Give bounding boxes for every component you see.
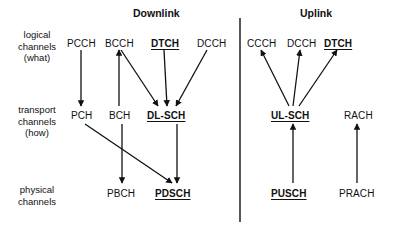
edge-ulsch-dcch xyxy=(293,50,300,106)
row-label-logical-line2: channels xyxy=(6,41,68,53)
node-pch[interactable]: PCH xyxy=(71,110,92,121)
row-label-physical-line2: channels xyxy=(6,196,68,208)
row-label-logical-line3: (what) xyxy=(6,52,68,64)
node-prach[interactable]: PRACH xyxy=(339,188,375,199)
edge-ulsch-ccch xyxy=(261,50,289,106)
uplink-title: Uplink xyxy=(300,7,332,19)
node-pdsch[interactable]: PDSCH xyxy=(155,188,191,199)
row-label-transport-line3: (how) xyxy=(6,127,68,139)
node-pcch[interactable]: PCCH xyxy=(67,38,96,49)
edge-dcchdl-dlsch xyxy=(176,50,207,106)
row-label-physical: physical channels xyxy=(6,184,68,207)
edge-bcch-dlsch xyxy=(121,50,158,106)
edge-pch-pdsch xyxy=(85,124,172,183)
node-bcch[interactable]: BCCH xyxy=(105,38,134,49)
row-label-transport-line2: channels xyxy=(6,116,68,128)
node-dcch-uplink[interactable]: DCCH xyxy=(287,38,316,49)
node-dtch-uplink[interactable]: DTCH xyxy=(324,38,352,49)
node-dcch-downlink[interactable]: DCCH xyxy=(197,38,226,49)
node-pbch[interactable]: PBCH xyxy=(107,188,135,199)
node-dl-sch[interactable]: DL-SCH xyxy=(147,110,185,121)
node-ccch-uplink[interactable]: CCCH xyxy=(247,38,276,49)
row-label-physical-line1: physical xyxy=(6,184,68,196)
downlink-title: Downlink xyxy=(133,7,180,19)
node-bch[interactable]: BCH xyxy=(109,110,130,121)
row-label-logical: logical channels (what) xyxy=(6,29,68,64)
row-label-transport: transport channels (how) xyxy=(6,104,68,139)
node-pusch[interactable]: PUSCH xyxy=(271,188,307,199)
edge-ulsch-dtch xyxy=(299,50,337,106)
node-rach[interactable]: RACH xyxy=(344,110,373,121)
node-dtch-downlink[interactable]: DTCH xyxy=(151,38,179,49)
row-label-logical-line1: logical xyxy=(6,29,68,41)
diagram-canvas: Downlink Uplink logical channels (what) … xyxy=(0,0,398,232)
edge-dtchdl-dlsch xyxy=(164,50,167,106)
node-ul-sch[interactable]: UL-SCH xyxy=(271,110,309,121)
row-label-transport-line1: transport xyxy=(6,104,68,116)
